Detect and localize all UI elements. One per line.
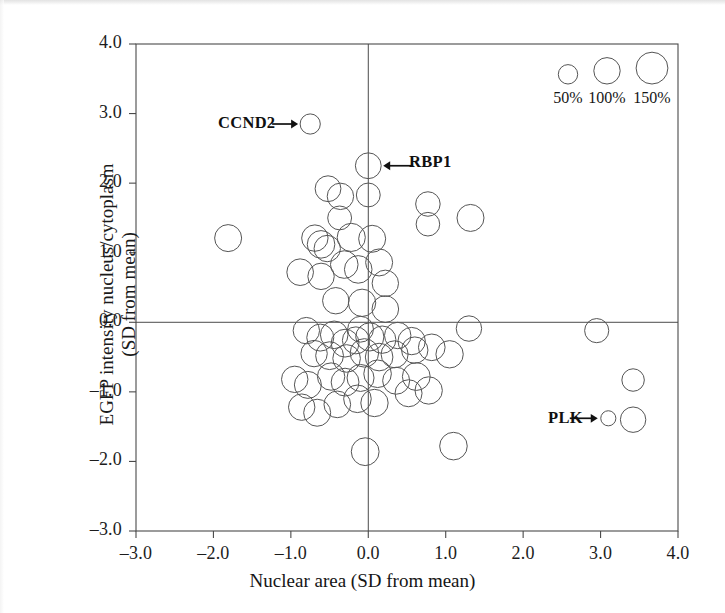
legend-size-circles [558,52,668,84]
x-tick-label: 4.0 [633,543,723,564]
data-point [351,438,379,466]
data-point [361,389,388,416]
data-point [287,259,314,286]
data-point [293,317,319,343]
annotation-label-ccnd2: CCND2 [218,113,275,133]
x-axis-title: Nuclear area (SD from mean) [0,570,725,592]
axis-ticks [129,44,678,538]
y-tick-label: –3.0 [40,519,122,540]
y-axis-title: EGFP intensity nucleus/cytoplasm (SD fro… [96,84,141,504]
data-point [620,407,645,432]
y-tick-label: 4.0 [40,32,122,53]
annotation-arrow [272,120,298,129]
figure-canvas: –3.0–2.0–1.00.01.02.03.04.0 –3.0–2.0–1.0… [0,0,725,613]
data-point [402,363,430,391]
data-point [456,316,481,341]
data-point [289,394,315,420]
data-point [302,225,328,251]
data-point [347,364,374,391]
data-point [330,251,358,279]
legend-label-150: 150% [612,89,692,107]
data-point-ccnd2 [300,114,320,134]
data-point [359,225,386,252]
data-point [418,334,445,361]
data-point [301,340,327,366]
legend-circle-150 [636,52,668,84]
data-point [385,322,411,348]
data-point [215,225,242,252]
data-point [398,327,425,354]
annotation-label-plk: PLK [548,408,583,428]
data-point [323,288,349,314]
data-point [348,289,375,316]
data-point [372,296,399,323]
data-point [457,204,484,231]
data-point-plk [601,411,616,426]
y-axis-title-line-2: (SD from mean) [118,84,140,504]
data-point [622,369,644,391]
data-point [317,363,344,390]
data-point [307,231,335,259]
data-point [383,367,410,394]
data-point [314,235,340,261]
data-point [402,337,428,363]
data-point [440,432,468,460]
annotation-label-rbp1: RBP1 [409,152,451,172]
legend-circle-100 [594,58,620,84]
data-point [436,341,463,368]
legend-circle-50 [558,65,577,84]
data-point [395,380,422,407]
data-point [315,176,341,202]
y-axis-title-line-1: EGFP intensity nucleus/cytoplasm [96,84,118,504]
